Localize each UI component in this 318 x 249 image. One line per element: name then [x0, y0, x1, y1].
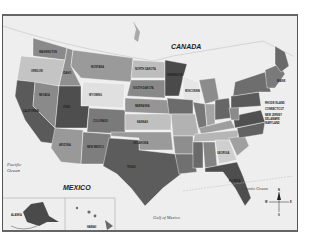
label-south-dakota: SOUTH DAKOTA	[133, 86, 154, 90]
label-nevada: NEVADA	[39, 93, 50, 97]
state-indiana[interactable]	[205, 104, 215, 126]
state-arkansas[interactable]	[173, 136, 193, 154]
state-missouri[interactable]	[171, 114, 199, 136]
state-mississippi[interactable]	[193, 142, 203, 168]
label-wisconsin: WISCONSIN	[185, 89, 200, 93]
state-wisconsin[interactable]	[183, 76, 201, 102]
label-north-dakota: NORTH DAKOTA	[135, 67, 156, 71]
inset-alaska[interactable]	[23, 202, 59, 226]
label-alaska: ALASKA	[11, 213, 22, 217]
state-kansas[interactable]	[125, 114, 171, 130]
label-new-mexico: NEW MEXICO	[87, 145, 104, 149]
compass-n: N	[278, 188, 280, 192]
label-texas: TEXAS	[127, 165, 136, 169]
state-florida[interactable]	[205, 162, 251, 206]
label-pacific-2: Ocean	[7, 168, 21, 173]
label-rhode-island: RHODE ISLAND	[265, 101, 285, 105]
compass-rose	[269, 192, 289, 212]
state-wyoming[interactable]	[81, 82, 125, 108]
label-idaho: IDAHO	[63, 71, 71, 75]
state-ohio[interactable]	[215, 98, 231, 120]
label-canada: CANADA	[171, 43, 201, 50]
label-colorado: COLORADO	[93, 119, 108, 123]
compass-s: S	[278, 213, 280, 217]
label-georgia: GEORGIA	[217, 151, 229, 155]
label-utah: UTAH	[63, 105, 70, 109]
label-pacific-1: Pacific	[6, 162, 22, 167]
label-maine: MAINE	[277, 79, 286, 83]
compass-w: W	[265, 200, 268, 204]
state-washington[interactable]	[33, 38, 67, 60]
canada-lake	[133, 21, 140, 42]
label-nebraska: NEBRASKA	[135, 104, 150, 108]
label-florida: FLORIDA	[229, 179, 241, 183]
state-iowa[interactable]	[167, 98, 193, 114]
label-california: CALIFORNIA	[23, 109, 39, 113]
us-map: CANADA MEXICO Pacific Ocean Atlantic Oce…	[3, 16, 298, 232]
label-wyoming: WYOMING	[89, 93, 102, 97]
label-delaware: DELAWARE	[265, 117, 280, 121]
label-oregon: OREGON	[31, 69, 43, 73]
label-maryland: MARYLAND	[265, 121, 280, 125]
label-montana: MONTANA	[91, 65, 104, 69]
label-kansas: KANSAS	[137, 120, 148, 124]
label-gulf: Gulf of Mexico	[153, 215, 181, 220]
map-frame: CANADA MEXICO Pacific Ocean Atlantic Oce…	[2, 14, 298, 232]
label-minnesota: MINNESOTA	[167, 73, 182, 77]
compass-e: E	[290, 200, 292, 204]
label-connecticut: CONNECTICUT	[265, 107, 284, 111]
label-hawaii: HAWAII	[87, 225, 97, 229]
label-oklahoma: OKLAHOMA	[133, 141, 148, 145]
state-new-york[interactable]	[233, 72, 271, 96]
label-arizona: ARIZONA	[59, 143, 71, 147]
label-new-jersey: NEW JERSEY	[265, 113, 282, 117]
state-alabama[interactable]	[203, 142, 217, 168]
state-west-virginia[interactable]	[229, 106, 239, 120]
label-mexico: MEXICO	[63, 184, 91, 191]
label-atlantic: Atlantic Ocean	[240, 186, 269, 191]
label-washington: WASHINGTON	[39, 50, 57, 54]
